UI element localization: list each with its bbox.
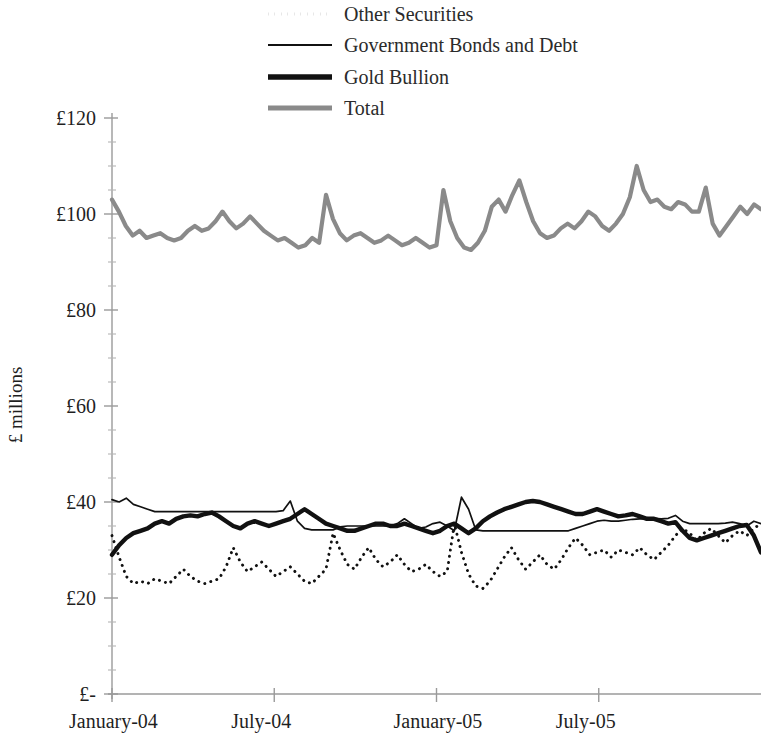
x-tick-label: July-04: [231, 710, 291, 733]
y-tick-label: £20: [66, 587, 96, 609]
y-tick-label: £60: [66, 395, 96, 417]
y-tick-label: £-: [79, 683, 96, 705]
x-tick-label: July-05: [556, 710, 616, 733]
x-axis-ticks: [112, 688, 599, 702]
legend-label-government-bonds: Government Bonds and Debt: [344, 34, 578, 56]
chart-legend: Other Securities Government Bonds and De…: [268, 3, 578, 119]
series-line-total: [112, 166, 761, 250]
y-tick-label: £40: [66, 491, 96, 513]
series-line-gold-bullion: [112, 501, 761, 555]
x-tick-label: January-05: [394, 710, 483, 733]
legend-label-gold-bullion: Gold Bullion: [344, 66, 449, 88]
y-axis-labels: £-£20£40£60£80£100£120: [56, 107, 96, 705]
y-tick-label: £120: [56, 107, 96, 129]
line-chart: Other Securities Government Bonds and De…: [0, 0, 761, 739]
y-tick-label: £100: [56, 203, 96, 225]
x-axis-labels: January-04July-04January-05July-05: [69, 710, 616, 733]
x-tick-label: January-04: [69, 710, 158, 733]
y-tick-label: £80: [66, 299, 96, 321]
y-axis-title: £ millions: [5, 367, 26, 444]
chart-container: Other Securities Government Bonds and De…: [0, 0, 761, 739]
legend-label-other-securities: Other Securities: [344, 3, 474, 25]
legend-label-total: Total: [344, 97, 385, 119]
chart-series-group: [112, 166, 761, 588]
